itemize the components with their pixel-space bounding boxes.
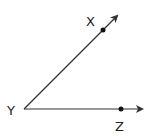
point-z <box>119 107 124 112</box>
label-y: Y <box>6 103 15 118</box>
label-x: X <box>86 14 95 29</box>
label-z: Z <box>115 119 124 134</box>
angle-diagram: X Y Z <box>0 0 158 138</box>
point-x <box>101 28 106 33</box>
